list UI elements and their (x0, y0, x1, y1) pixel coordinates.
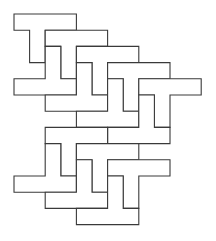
t-tile-diagram (0, 0, 216, 241)
